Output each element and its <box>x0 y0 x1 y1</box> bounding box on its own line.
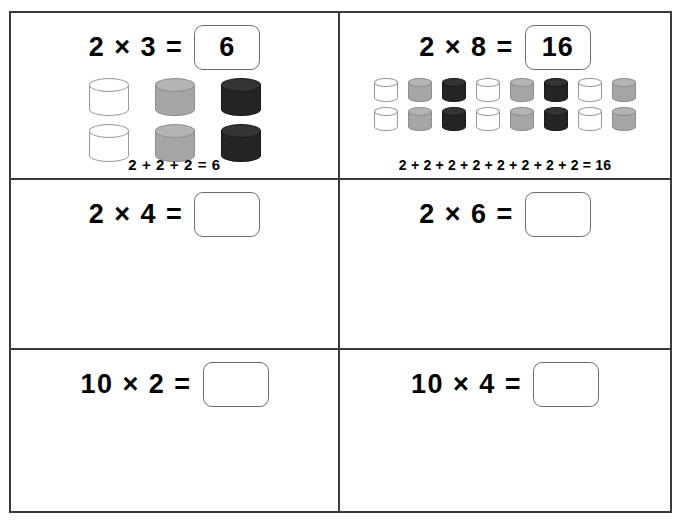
cylinder-icon <box>612 107 636 132</box>
equation-row: 2 × 3 = 6 <box>11 13 338 70</box>
cylinder-icon <box>374 78 398 103</box>
equation-text: 10 × 4 = <box>411 371 522 398</box>
worksheet-cell-4: 2 × 6 = <box>340 180 670 350</box>
worksheet-cell-3: 2 × 4 = <box>11 180 340 350</box>
cylinder-icon <box>510 78 534 103</box>
cylinder-icon <box>89 78 129 118</box>
answer-box[interactable] <box>194 192 260 237</box>
equation-text: 2 × 4 = <box>89 201 184 228</box>
cylinder-icon <box>578 78 602 103</box>
equation-row: 10 × 4 = <box>340 350 670 407</box>
worksheet-cell-1: 2 × 3 = 6 2 + 2 + 2 = 6 <box>11 13 340 180</box>
equation-row: 10 × 2 = <box>11 350 338 407</box>
equation-text: 2 × 8 = <box>419 34 514 61</box>
cylinder-icon <box>155 78 195 118</box>
worksheet-cell-2: 2 × 8 = 16 <box>340 13 670 180</box>
cylinder-icon <box>544 107 568 132</box>
cylinder-icon <box>442 107 466 132</box>
worksheet-cell-6: 10 × 4 = <box>340 350 670 511</box>
cylinder-row <box>369 78 641 107</box>
cylinder-icon <box>442 78 466 103</box>
cylinder-icon <box>578 107 602 132</box>
equation-text: 2 × 6 = <box>419 201 514 228</box>
cylinder-row <box>369 107 641 136</box>
answer-box[interactable] <box>533 362 599 407</box>
cylinder-icon <box>476 107 500 132</box>
equation-row: 2 × 8 = 16 <box>340 13 670 70</box>
addition-sentence: 2 + 2 + 2 + 2 + 2 + 2 + 2 + 2 = 16 <box>340 157 670 173</box>
cylinder-icon <box>374 107 398 132</box>
worksheet-cell-5: 10 × 2 = <box>11 350 340 511</box>
answer-box[interactable] <box>525 192 591 237</box>
addition-sentence: 2 + 2 + 2 = 6 <box>11 156 338 173</box>
cylinder-array <box>340 78 670 136</box>
equation-text: 10 × 2 = <box>80 371 191 398</box>
cylinder-icon <box>476 78 500 103</box>
cylinder-icon <box>221 78 261 118</box>
answer-box[interactable] <box>203 362 269 407</box>
equation-row: 2 × 4 = <box>11 180 338 237</box>
equation-row: 2 × 6 = <box>340 180 670 237</box>
cylinder-icon <box>408 107 432 132</box>
cylinder-row <box>76 78 274 124</box>
cylinder-icon <box>612 78 636 103</box>
cylinder-icon <box>544 78 568 103</box>
equation-text: 2 × 3 = <box>89 34 184 61</box>
answer-box[interactable]: 16 <box>525 25 591 70</box>
answer-box[interactable]: 6 <box>194 25 260 70</box>
worksheet-grid: 2 × 3 = 6 2 + 2 + 2 = 6 2 × 8 = 16 <box>9 11 672 513</box>
cylinder-icon <box>408 78 432 103</box>
cylinder-icon <box>510 107 534 132</box>
